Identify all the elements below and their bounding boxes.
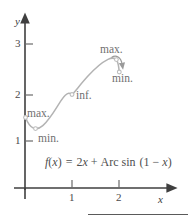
point-max-right bbox=[115, 58, 119, 62]
formula-tail-open: (1 bbox=[140, 155, 150, 169]
formula-plus: + bbox=[91, 155, 98, 169]
function-formula: f(x)=2x+Arc sin(1−x) bbox=[45, 156, 172, 168]
point-min-left bbox=[34, 127, 38, 131]
annotation-inflection: inf. bbox=[76, 90, 92, 102]
formula-paren-close: ) bbox=[58, 155, 62, 169]
annotation-max-right: max. bbox=[100, 44, 123, 56]
formula-equals: = bbox=[66, 155, 73, 169]
y-tick-label-2: 2 bbox=[15, 89, 21, 100]
y-tick-label-1: 1 bbox=[15, 135, 21, 146]
x-axis-label: x bbox=[158, 194, 163, 205]
annotation-min-left: min. bbox=[38, 133, 59, 145]
formula-minus: − bbox=[153, 155, 160, 169]
formula-x-term: x bbox=[82, 155, 87, 169]
bottom-divider bbox=[88, 214, 188, 215]
point-inflection bbox=[70, 93, 74, 97]
x-tick-label-2: 2 bbox=[116, 192, 122, 203]
annotation-max-left: max. bbox=[27, 108, 50, 120]
annotation-min-right: min. bbox=[112, 73, 133, 85]
y-axis-label: y bbox=[15, 16, 20, 27]
figure-container: y x 3 2 1 1 2 max. min. inf. max. min. f… bbox=[0, 0, 195, 224]
formula-arcsin: Arc sin bbox=[101, 155, 136, 169]
y-tick-label-3: 3 bbox=[15, 38, 21, 49]
formula-tail-close: ) bbox=[168, 155, 172, 169]
x-tick-label-1: 1 bbox=[69, 192, 75, 203]
